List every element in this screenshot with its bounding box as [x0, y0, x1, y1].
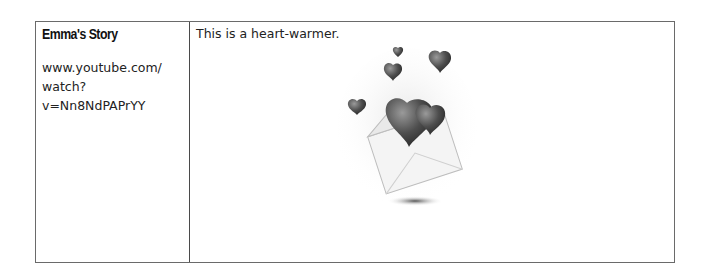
- description-text: This is a heart-warmer.: [196, 26, 340, 41]
- url-line-1[interactable]: www.youtube.com/: [42, 58, 187, 77]
- url-line-2[interactable]: watch?v=Nn8NdPAPrYY: [42, 77, 187, 115]
- left-cell: Emma's Story www.youtube.com/ watch?v=Nn…: [42, 25, 187, 115]
- envelope-hearts-image: [335, 43, 480, 213]
- video-link[interactable]: www.youtube.com/ watch?v=Nn8NdPAPrYY: [42, 58, 187, 115]
- column-divider: [189, 22, 190, 262]
- story-title: Emma's Story: [42, 25, 161, 42]
